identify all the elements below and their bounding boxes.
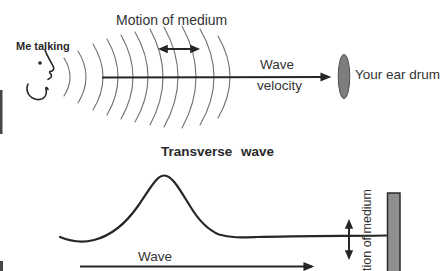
sound-arc — [93, 44, 103, 110]
scan-artifact — [0, 261, 3, 271]
wave-velocity-label-line2: velocity — [257, 79, 302, 93]
wave-diagram: Me talking Motion of medium Wave velocit… — [0, 0, 443, 271]
transverse-wave-curve — [60, 175, 387, 241]
wave-velocity-label-line1: Wave — [260, 58, 294, 72]
transverse-wave-title: Transverse wave — [161, 145, 274, 159]
eardrum-shape — [338, 55, 350, 99]
face-chin — [27, 84, 48, 100]
face-eye — [38, 61, 42, 65]
eardrum-label: Your ear drum — [355, 68, 440, 82]
speaker-label: Me talking — [16, 41, 70, 53]
transverse-motion-label: tion of medium — [361, 189, 374, 271]
face-profile — [45, 50, 54, 80]
sound-arc — [64, 58, 70, 96]
medium-motion-label: Motion of medium — [116, 13, 227, 28]
scan-artifacts — [0, 90, 3, 271]
wall-shape — [388, 193, 401, 271]
scan-artifact — [0, 90, 3, 134]
speaker-face-icon — [27, 50, 54, 100]
sound-arc — [78, 51, 86, 103]
transverse-velocity-label: Wave — [138, 250, 172, 264]
